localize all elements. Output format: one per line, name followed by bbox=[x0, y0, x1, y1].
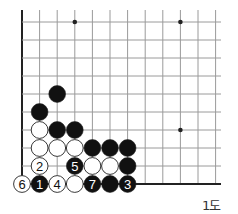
move-number: 3 bbox=[124, 177, 131, 192]
white-stone bbox=[31, 122, 48, 139]
move-number: 7 bbox=[89, 177, 96, 192]
white-stone bbox=[102, 158, 119, 175]
stone-body bbox=[84, 158, 101, 175]
white-stone: 2 bbox=[31, 158, 48, 175]
go-board: 2561473 bbox=[0, 0, 238, 214]
stone-body bbox=[49, 86, 66, 103]
white-stone bbox=[31, 140, 48, 157]
stone-body bbox=[119, 140, 136, 157]
black-stone bbox=[84, 140, 101, 157]
white-stone bbox=[84, 158, 101, 175]
white-stone: 4 bbox=[49, 176, 66, 193]
stone-body bbox=[49, 140, 66, 157]
star-point bbox=[73, 20, 78, 25]
stone-body bbox=[31, 140, 48, 157]
move-number: 4 bbox=[54, 177, 61, 192]
white-stone bbox=[49, 140, 66, 157]
stone-body bbox=[84, 140, 101, 157]
move-number: 6 bbox=[18, 177, 25, 192]
stone-body bbox=[102, 140, 119, 157]
black-stone bbox=[49, 86, 66, 103]
black-stone bbox=[102, 140, 119, 157]
stone-body bbox=[102, 158, 119, 175]
black-stone: 3 bbox=[119, 176, 136, 193]
move-number: 2 bbox=[36, 159, 43, 174]
white-stone: 6 bbox=[14, 176, 31, 193]
stone-body bbox=[66, 140, 83, 157]
black-stone bbox=[49, 122, 66, 139]
black-stone: 7 bbox=[84, 176, 101, 193]
star-point bbox=[178, 20, 183, 25]
black-stone bbox=[31, 104, 48, 121]
black-stone bbox=[66, 122, 83, 139]
stone-body bbox=[49, 122, 66, 139]
move-number: 1 bbox=[36, 177, 43, 192]
black-stone bbox=[119, 158, 136, 175]
black-stone: 1 bbox=[31, 176, 48, 193]
diagram-caption: 1도 bbox=[202, 195, 220, 214]
black-stone: 5 bbox=[66, 158, 83, 175]
move-number: 5 bbox=[71, 159, 78, 174]
stone-body bbox=[31, 122, 48, 139]
stone-body bbox=[66, 176, 83, 193]
black-stone bbox=[119, 140, 136, 157]
stone-body bbox=[102, 176, 119, 193]
stone-body bbox=[119, 158, 136, 175]
star-point bbox=[178, 128, 183, 133]
stone-body bbox=[66, 122, 83, 139]
black-stone bbox=[102, 176, 119, 193]
white-stone bbox=[66, 176, 83, 193]
stone-body bbox=[31, 104, 48, 121]
white-stone bbox=[66, 140, 83, 157]
